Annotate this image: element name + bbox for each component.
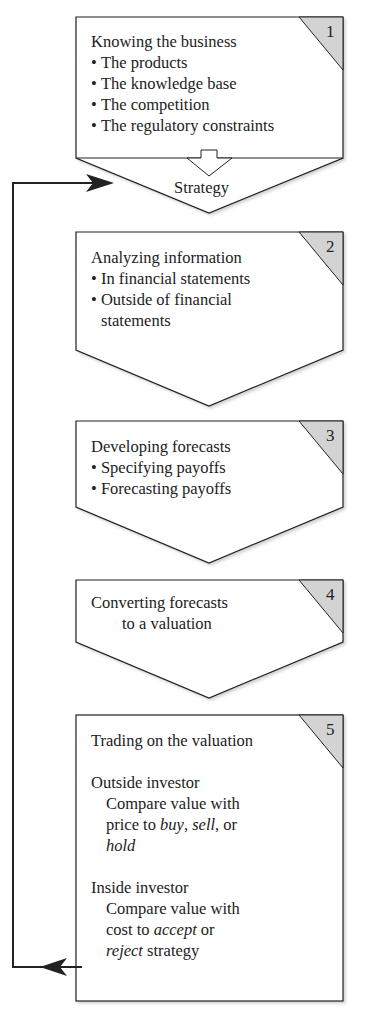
step-1-bullet: The knowledge base [91,73,274,94]
text-fragment: cost to [106,920,154,939]
step-4-content: Converting forecasts to a valuation [91,592,228,634]
buy-term: buy [160,815,184,834]
step-1-bullet: The competition [91,94,274,115]
step-1-title: Knowing the business [91,31,274,52]
outside-investor-line1: Compare value with [91,793,253,814]
step-3-title: Developing forecasts [91,436,231,457]
step-2-bullet: In financial statements [91,268,250,289]
step-5-title: Trading on the valuation [91,730,253,751]
inside-investor-line2: cost to accept or [91,919,253,940]
inside-investor-line1: Compare value with [91,898,253,919]
step-2-bullet: Outside of financial [91,289,250,310]
step-2-content: Analyzing information In financial state… [91,247,250,331]
step-3-content: Developing forecasts Specifying payoffs … [91,436,231,499]
reject-term: reject [106,941,143,960]
text-fragment: price to [106,815,160,834]
step-4-number: 4 [326,585,335,605]
accept-term: accept [154,920,197,939]
step-3-number: 3 [326,426,335,446]
step-1-bullet: The regulatory constraints [91,115,274,136]
step-2-bullet-continuation: statements [91,310,250,331]
outside-investor-heading: Outside investor [91,772,253,793]
text-fragment: strategy [143,941,199,960]
text-fragment: , [184,815,192,834]
inside-investor-line3: reject strategy [91,940,253,961]
step-2-number: 2 [326,237,335,257]
step-2-title: Analyzing information [91,247,250,268]
step-1-content: Knowing the business The products The kn… [91,31,274,136]
step-5-content: Trading on the valuation Outside investo… [91,730,253,961]
step-4-title: Converting forecasts [91,592,228,613]
text-fragment: , or [215,815,237,834]
step-4-title-line2: to a valuation [91,613,228,634]
outside-investor-line3: hold [91,835,253,856]
spacer [91,751,253,772]
outside-investor-line2: price to buy, sell, or [91,814,253,835]
spacer [91,856,253,877]
step-1-number: 1 [326,22,335,42]
strategy-label: Strategy [174,177,229,198]
step-3-bullet: Forecasting payoffs [91,478,231,499]
text-fragment: or [197,920,215,939]
step-1-bullet: The products [91,52,274,73]
sell-term: sell [192,815,215,834]
inside-investor-heading: Inside investor [91,877,253,898]
step-3-bullet: Specifying payoffs [91,457,231,478]
step-5-number: 5 [326,720,335,740]
hold-term: hold [106,836,135,855]
